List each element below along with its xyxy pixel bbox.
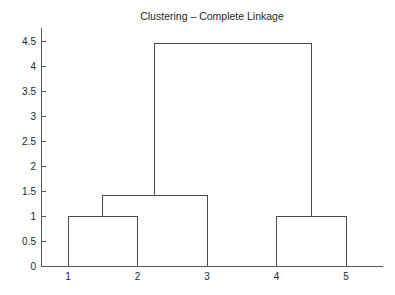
x-tick-label: 4: [274, 271, 280, 282]
x-tick-label: 3: [204, 271, 210, 282]
y-tick-label: 1: [30, 211, 36, 222]
y-tick-label: 1.5: [22, 186, 36, 197]
y-tick-label: 0.5: [22, 236, 36, 247]
x-tick-label: 2: [135, 271, 141, 282]
dendrogram-figure: Clustering – Complete Linkage 00.511.522…: [0, 0, 395, 295]
y-tick-label: 4.5: [22, 36, 36, 47]
y-tick-label: 0: [30, 261, 36, 272]
y-tick-label: 2: [30, 161, 36, 172]
y-tick-label: 4: [30, 61, 36, 72]
x-tick-label: 1: [65, 271, 71, 282]
y-tick-label: 3: [30, 111, 36, 122]
y-tick-label: 3.5: [22, 86, 36, 97]
x-tick-label: 5: [343, 271, 349, 282]
y-tick-label: 2.5: [22, 136, 36, 147]
chart-title: Clustering – Complete Linkage: [140, 10, 284, 22]
dendrogram-plot: Clustering – Complete Linkage 00.511.522…: [0, 0, 395, 295]
